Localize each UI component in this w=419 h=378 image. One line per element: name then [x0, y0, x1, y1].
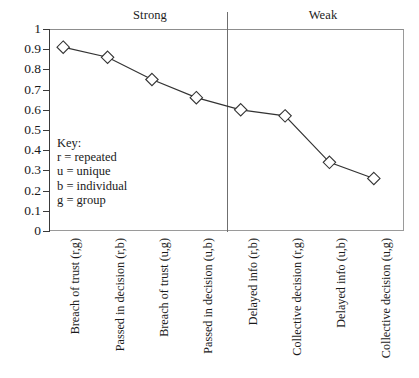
x-axis-category-label: Collective decision (u,g) — [380, 238, 393, 358]
y-axis-tick-label: 0.4 — [1, 143, 41, 157]
key-entry-b: b = individual — [57, 179, 127, 193]
y-axis-tick — [43, 170, 50, 171]
y-axis-tick-label: 0.3 — [1, 163, 41, 177]
y-axis-tick — [43, 49, 50, 50]
y-axis-tick-label: 0 — [1, 224, 41, 238]
y-axis-tick-label: 0.9 — [1, 42, 41, 56]
group-label-strong: Strong — [95, 8, 205, 23]
y-axis-tick-label: 0.8 — [1, 62, 41, 76]
key-entry-r: r = repeated — [57, 150, 127, 164]
key-title: Key: — [57, 136, 127, 150]
group-label-weak: Weak — [268, 8, 378, 23]
y-axis-tick — [43, 191, 50, 192]
y-axis-tick — [43, 150, 50, 151]
y-axis-tick — [43, 211, 50, 212]
y-axis-tick — [43, 90, 50, 91]
x-axis-category-label: Passed in decision (r,b) — [114, 238, 127, 351]
y-axis-tick — [43, 29, 50, 30]
x-axis-category-label: Breach of trust (r,g) — [69, 238, 82, 334]
y-axis-tick-label: 1 — [1, 22, 41, 36]
chart-container: Strong Weak 00.10.20.30.40.50.60.70.80.9… — [0, 0, 419, 378]
x-axis-category-label: Delayed info (u,b) — [335, 238, 348, 328]
y-axis-tick — [43, 110, 50, 111]
group-divider-line — [227, 12, 228, 232]
x-axis-category-label: Delayed info (r,b) — [247, 238, 260, 325]
x-axis-category-label: Passed in decision (u,b) — [202, 238, 215, 354]
key-entry-g: g = group — [57, 193, 127, 207]
y-axis-tick-label: 0.1 — [1, 204, 41, 218]
y-axis-tick-label: 0.6 — [1, 103, 41, 117]
y-axis-tick-label: 0.7 — [1, 83, 41, 97]
x-axis-category-label: Breach of trust (u,g) — [158, 238, 171, 337]
key-entry-u: u = unique — [57, 164, 127, 178]
x-axis-category-label: Collective decision (r,g) — [291, 238, 304, 356]
y-axis-tick — [43, 231, 50, 232]
y-axis-tick-label: 0.2 — [1, 184, 41, 198]
y-axis-tick — [43, 130, 50, 131]
y-axis-tick-label: 0.5 — [1, 123, 41, 137]
y-axis-tick — [43, 69, 50, 70]
key-legend: Key: r = repeated u = unique b = individ… — [57, 136, 127, 207]
